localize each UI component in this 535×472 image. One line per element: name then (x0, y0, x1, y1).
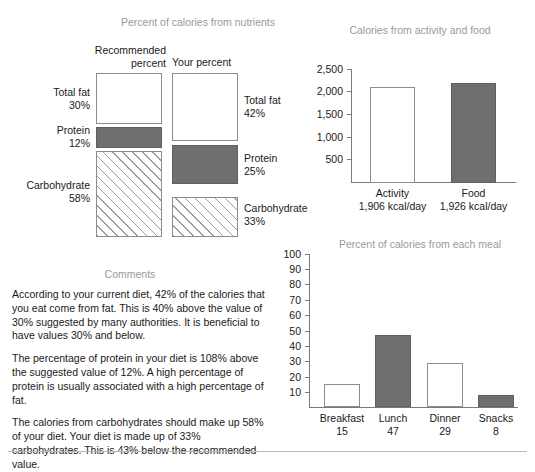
meals-tick-80 (305, 284, 310, 285)
activity-category-food-sub: 1,926 kcal/day (427, 200, 520, 213)
recommended-stacked-bar (96, 73, 162, 237)
meals-bar-breakfast (324, 384, 360, 407)
activity-chart-title: Calories from activity and food (330, 24, 510, 36)
meals-tick-label-100: 100 (262, 248, 301, 260)
meals-tick-90 (305, 269, 310, 270)
meals-x-axis (309, 407, 518, 408)
your-label-carbohydrate-name: Carbohydrate (244, 202, 334, 215)
meals-tick-label-20: 20 (262, 371, 301, 383)
meals-tick-label-60: 60 (262, 309, 301, 321)
column-header-recommended-line2: percent (88, 57, 166, 70)
recommended-segment-carbohydrate (96, 151, 162, 237)
meals-category-snacks-label: Snacks (464, 412, 528, 425)
activity-tick-2500 (347, 69, 352, 70)
comments-paragraph-2: The percentage of protein in your diet i… (12, 352, 266, 407)
recommended-label-carbohydrate-value: 58% (0, 192, 90, 205)
recommended-label-protein-name: Protein (4, 124, 90, 137)
meals-tick-label-10: 10 (262, 386, 301, 398)
meals-tick-100 (305, 254, 310, 255)
activity-tick-label-1000: 1,000 (300, 131, 343, 143)
meals-tick-label-70: 70 (262, 294, 301, 306)
recommended-label-total-fat: Total fat 30% (4, 86, 90, 111)
activity-tick-label-1500: 1,500 (300, 108, 343, 120)
activity-tick-label-500: 500 (300, 153, 343, 165)
recommended-segment-total-fat (96, 73, 162, 124)
column-header-recommended-line1: Recommended (88, 44, 166, 57)
meals-chart: 100 90 80 70 60 50 40 30 20 10 Breakfast… (262, 248, 535, 448)
meals-category-snacks-value: 8 (464, 425, 528, 438)
column-header-your-percent: Your percent (172, 56, 252, 69)
column-header-recommended: Recommended percent (88, 44, 166, 69)
meals-tick-30 (305, 361, 310, 362)
activity-category-food-label: Food (427, 187, 520, 200)
meals-tick-70 (305, 300, 310, 301)
activity-bar-food (451, 83, 496, 183)
recommended-label-carbohydrate: Carbohydrate 58% (0, 179, 90, 204)
comments-title: Comments (60, 268, 200, 280)
meals-category-snacks: Snacks 8 (464, 412, 528, 437)
activity-category-activity-label: Activity (346, 187, 439, 200)
your-label-carbohydrate: Carbohydrate 33% (244, 202, 334, 227)
activity-category-activity: Activity 1,906 kcal/day (346, 187, 439, 212)
recommended-label-total-fat-value: 30% (4, 99, 90, 112)
your-segment-carbohydrate (172, 197, 238, 237)
comments-paragraph-3: The calories from carbohydrates should m… (12, 416, 266, 471)
activity-tick-500 (347, 159, 352, 160)
activity-tick-1500 (347, 114, 352, 115)
meals-bar-dinner (427, 363, 463, 407)
footer-divider (8, 451, 527, 452)
meals-tick-label-40: 40 (262, 340, 301, 352)
meals-tick-60 (305, 315, 310, 316)
recommended-segment-protein (96, 127, 162, 148)
meals-bar-snacks (478, 395, 514, 407)
your-label-carbohydrate-value: 33% (244, 215, 334, 228)
activity-bar-activity (370, 87, 415, 183)
recommended-label-protein-value: 12% (4, 137, 90, 150)
meals-tick-label-80: 80 (262, 278, 301, 290)
comments-body: According to your current diet, 42% of t… (12, 288, 266, 472)
comments-paragraph-1: According to your current diet, 42% of t… (12, 288, 266, 343)
meals-tick-50 (305, 331, 310, 332)
meals-tick-20 (305, 377, 310, 378)
activity-tick-label-2000: 2,000 (300, 85, 343, 97)
activity-chart: 2,500 2,000 1,500 1,000 500 Activity 1,9… (300, 50, 525, 195)
your-segment-total-fat (172, 73, 238, 141)
your-percent-stacked-bar (172, 73, 238, 237)
meals-tick-label-50: 50 (262, 325, 301, 337)
your-segment-protein (172, 145, 238, 184)
activity-category-activity-sub: 1,906 kcal/day (346, 200, 439, 213)
nutrients-chart-title: Percent of calories from nutrients (98, 16, 298, 28)
activity-category-food: Food 1,926 kcal/day (427, 187, 520, 212)
meals-tick-label-30: 30 (262, 355, 301, 367)
meals-tick-10 (305, 392, 310, 393)
activity-tick-label-2500: 2,500 (300, 63, 343, 75)
recommended-label-carbohydrate-name: Carbohydrate (0, 179, 90, 192)
recommended-label-protein: Protein 12% (4, 124, 90, 149)
recommended-label-total-fat-name: Total fat (4, 86, 90, 99)
meals-tick-label-90: 90 (262, 263, 301, 275)
activity-tick-2000 (347, 91, 352, 92)
meals-tick-40 (305, 346, 310, 347)
activity-tick-1000 (347, 137, 352, 138)
meals-bar-lunch (375, 335, 411, 407)
activity-y-axis (351, 69, 352, 182)
